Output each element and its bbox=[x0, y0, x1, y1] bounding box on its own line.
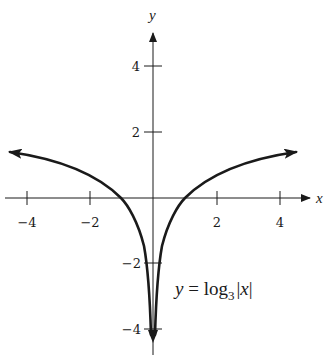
curve-left-branch bbox=[10, 152, 151, 335]
x-axis-label: x bbox=[315, 190, 323, 206]
log-graph: −4 −2 2 4 4 2 −2 −4 x y y = log3|x| bbox=[0, 0, 325, 359]
curve-right-branch bbox=[155, 152, 296, 335]
y-tick-label: −2 bbox=[122, 256, 141, 271]
y-tick-label: 4 bbox=[132, 59, 140, 74]
x-tick-label: −2 bbox=[80, 215, 99, 230]
asymptote-arrow bbox=[148, 330, 158, 343]
y-tick-label: −4 bbox=[122, 322, 141, 337]
x-tick-label: −4 bbox=[17, 215, 36, 230]
y-axis-label: y bbox=[147, 7, 156, 23]
function-equation: y = log3|x| bbox=[173, 278, 253, 303]
y-tick-label: 2 bbox=[132, 125, 140, 140]
x-tick-label: 4 bbox=[276, 215, 284, 230]
x-tick-label: 2 bbox=[213, 215, 221, 230]
